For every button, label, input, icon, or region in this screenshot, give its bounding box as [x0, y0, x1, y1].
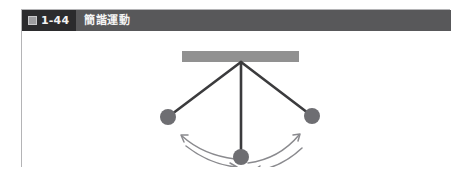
swing-arrow-right-inward: [253, 148, 302, 167]
swing-arrow-right-outward: [248, 134, 300, 163]
figure-glyph-icon: [28, 16, 37, 25]
swing-arrow-left-inward: [186, 146, 237, 167]
ceiling-support-bar: [182, 51, 299, 62]
pendulum-rod-left: [168, 62, 241, 117]
figure-title-label: 簡諧運動: [76, 15, 130, 26]
pendulum-diagram: [22, 31, 451, 167]
figure-frame: 1-44 簡諧運動: [21, 9, 450, 167]
swing-arrow-left-outward: [181, 135, 235, 159]
figure-header-bar: 1-44 簡諧運動: [22, 10, 451, 31]
pendulum-bob-center: [233, 149, 249, 165]
pendulum-bob-left: [160, 109, 176, 125]
figure-number-label: 1-44: [41, 15, 69, 26]
figure-canvas: [22, 31, 451, 167]
pendulum-rod-right: [241, 62, 312, 116]
figure-root: 1-44 簡諧運動: [0, 0, 472, 178]
figure-number-badge: 1-44: [22, 10, 76, 31]
pendulum-bob-right: [304, 108, 320, 124]
